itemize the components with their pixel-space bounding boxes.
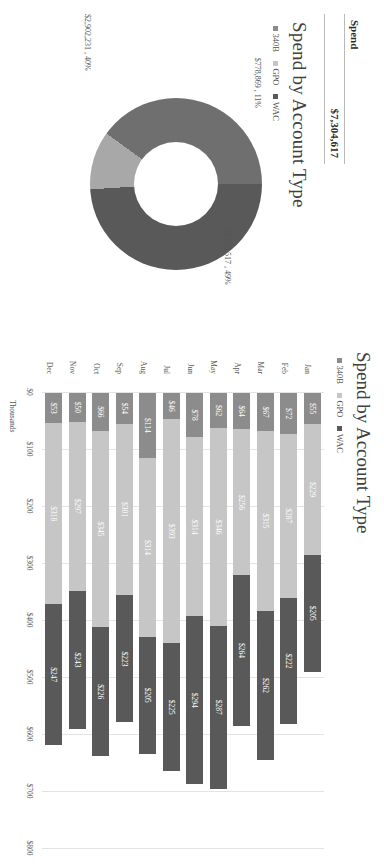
bar-row[interactable]: $114$314$205 bbox=[139, 393, 156, 849]
bar-segment-gpo[interactable]: $346 bbox=[210, 428, 227, 625]
bar-segment-340b[interactable]: $66 bbox=[92, 393, 109, 431]
legend-label: WAC bbox=[335, 434, 345, 453]
value-axis-tick: $100 bbox=[25, 442, 34, 457]
legend-item-wac[interactable]: WAC bbox=[271, 94, 281, 120]
category-axis-tick: Feb bbox=[280, 363, 289, 378]
value-axis-tick: $300 bbox=[25, 556, 34, 571]
bar-segment-wac[interactable]: $243 bbox=[69, 591, 86, 730]
value-axis-tick: $600 bbox=[25, 727, 34, 742]
bar-segment-340b[interactable]: $54 bbox=[116, 393, 133, 424]
kpi-total-value: $7,304,617 bbox=[325, 74, 345, 164]
bar-segment-gpo[interactable]: $229 bbox=[304, 424, 321, 555]
kpi-and-donut-panel: Spend $7,304,617 Spend by Account Type 3… bbox=[0, 0, 384, 330]
bar-segment-340b[interactable]: $114 bbox=[139, 393, 156, 458]
bar-segment-gpo[interactable]: $314 bbox=[186, 437, 203, 616]
value-axis-tick: $500 bbox=[25, 670, 34, 685]
bar-segment-gpo[interactable]: $297 bbox=[69, 422, 86, 591]
donut-chart-card: Spend by Account Type 340B GPO WAC bbox=[14, 0, 314, 330]
legend-label: GPO bbox=[271, 68, 281, 85]
donut-data-label-340b: $3,623,517 , 49% bbox=[222, 228, 232, 285]
value-axis-tick: $400 bbox=[25, 613, 34, 628]
category-axis-tick: Oct bbox=[92, 363, 101, 378]
legend-item-gpo[interactable]: GPO bbox=[335, 393, 345, 418]
spend-kpi-table: Spend $7,304,617 bbox=[324, 14, 364, 164]
bar-segment-gpo[interactable]: $287 bbox=[280, 434, 297, 598]
table-row: $7,304,617 bbox=[325, 14, 345, 164]
bar-segment-gpo[interactable]: $301 bbox=[116, 424, 133, 596]
donut-chart-title: Spend by Account Type bbox=[288, 22, 310, 208]
bar-chart-title: Spend by Account Type bbox=[352, 352, 374, 533]
legend-label: WAC bbox=[271, 102, 281, 121]
legend-label: 340B bbox=[335, 366, 345, 384]
bar-row[interactable]: $72$287$222 bbox=[280, 393, 297, 849]
category-axis-tick: Apr bbox=[233, 362, 242, 378]
bar-segment-wac[interactable]: $287 bbox=[210, 626, 227, 790]
category-axis-tick: Nov bbox=[68, 361, 77, 378]
bar-segment-gpo[interactable]: $315 bbox=[257, 431, 274, 611]
bar-row[interactable]: $67$315$262 bbox=[257, 393, 274, 849]
bar-segment-wac[interactable]: $222 bbox=[280, 598, 297, 725]
bar-segment-gpo[interactable]: $256 bbox=[233, 429, 250, 575]
bar-segment-gpo[interactable]: $393 bbox=[163, 419, 180, 643]
donut-data-label-wac: $2,902,231 , 40% bbox=[82, 14, 92, 71]
bar-segment-wac[interactable]: $225 bbox=[163, 643, 180, 771]
bar-segment-wac[interactable]: $205 bbox=[304, 555, 321, 672]
bar-chart-legend: 340B GPO WAC bbox=[335, 358, 345, 453]
bar-row[interactable]: $62$346$287 bbox=[210, 393, 227, 849]
bar-segment-wac[interactable]: $264 bbox=[233, 575, 250, 725]
category-axis-tick: May bbox=[209, 360, 218, 378]
legend-swatch-icon bbox=[274, 26, 279, 31]
bar-row[interactable]: $50$297$243 bbox=[69, 393, 86, 849]
value-axis-tick: $200 bbox=[25, 499, 34, 514]
legend-swatch-icon bbox=[338, 393, 343, 398]
category-axis-tick: Mar bbox=[256, 362, 265, 379]
bar-row[interactable]: $64$256$264 bbox=[233, 393, 250, 849]
bar-segment-wac[interactable]: $294 bbox=[186, 616, 203, 784]
bar-segment-340b[interactable]: $67 bbox=[257, 393, 274, 431]
donut-data-label-gpo: $778,869 , 11% bbox=[252, 16, 262, 108]
bar-segment-wac[interactable]: $223 bbox=[116, 595, 133, 722]
category-axis-tick: Jan bbox=[303, 364, 312, 378]
value-axis-tick: $700 bbox=[25, 784, 34, 799]
category-axis-tick: Dec bbox=[45, 362, 54, 378]
bar-segment-340b[interactable]: $72 bbox=[280, 393, 297, 434]
bar-chart-plot-area: Thousands $0$100$200$300$400$500$600$700… bbox=[42, 392, 324, 848]
dashboard-frame: Spend $7,304,617 Spend by Account Type 3… bbox=[0, 0, 384, 864]
bar-row[interactable]: $55$229$205 bbox=[304, 393, 321, 849]
legend-label: 340B bbox=[271, 34, 281, 52]
category-axis-tick: Aug bbox=[139, 361, 148, 378]
category-axis-tick: Sep bbox=[115, 363, 124, 378]
bar-row[interactable]: $54$301$223 bbox=[116, 393, 133, 849]
bar-segment-340b[interactable]: $55 bbox=[304, 393, 321, 424]
bar-segment-340b[interactable]: $46 bbox=[163, 393, 180, 419]
bar-segment-340b[interactable]: $53 bbox=[45, 393, 62, 423]
bar-segment-340b[interactable]: $64 bbox=[233, 393, 250, 429]
bar-segment-gpo[interactable]: $345 bbox=[92, 431, 109, 628]
bar-row[interactable]: $46$393$225 bbox=[163, 393, 180, 849]
bar-segment-gpo[interactable]: $314 bbox=[139, 458, 156, 637]
legend-swatch-icon bbox=[274, 94, 279, 99]
value-axis-tick: $800 bbox=[25, 841, 34, 856]
legend-swatch-icon bbox=[274, 61, 279, 66]
donut-chart-plot bbox=[90, 98, 262, 270]
bar-segment-wac[interactable]: $226 bbox=[92, 627, 109, 756]
bar-segment-wac[interactable]: $247 bbox=[45, 604, 62, 745]
bar-segment-340b[interactable]: $78 bbox=[186, 393, 203, 437]
legend-item-340b[interactable]: 340B bbox=[271, 26, 281, 52]
bar-segment-wac[interactable]: $205 bbox=[139, 637, 156, 754]
bar-segment-340b[interactable]: $62 bbox=[210, 393, 227, 428]
bar-segment-gpo[interactable]: $318 bbox=[45, 423, 62, 604]
legend-item-gpo[interactable]: GPO bbox=[271, 61, 281, 86]
bar-row[interactable]: $78$314$294 bbox=[186, 393, 203, 849]
legend-item-wac[interactable]: WAC bbox=[335, 426, 345, 452]
bar-row[interactable]: $53$318$247 bbox=[45, 393, 62, 849]
legend-swatch-icon bbox=[338, 358, 343, 363]
bar-chart-panel: Spend by Account Type 340B GPO WAC Thous… bbox=[0, 330, 384, 864]
kpi-header-value-spacer bbox=[345, 74, 365, 164]
bar-row[interactable]: $66$345$226 bbox=[92, 393, 109, 849]
kpi-row-spacer bbox=[325, 14, 345, 74]
legend-item-340b[interactable]: 340B bbox=[335, 358, 345, 384]
bar-segment-340b[interactable]: $50 bbox=[69, 393, 86, 422]
kpi-header-label: Spend bbox=[345, 14, 365, 74]
bar-segment-wac[interactable]: $262 bbox=[257, 611, 274, 760]
